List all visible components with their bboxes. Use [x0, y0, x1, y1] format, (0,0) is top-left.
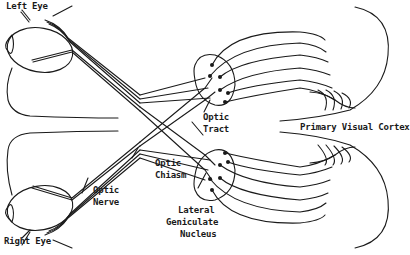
- lgn-upper: [194, 32, 335, 105]
- left-eye: [4, 6, 140, 111]
- label-right-eye: Right Eye: [4, 236, 51, 247]
- head-outline: [7, 68, 118, 195]
- right-eye: [4, 142, 140, 248]
- label-left-eye: Left Eye: [6, 1, 48, 12]
- lgn-lower: [194, 150, 335, 223]
- label-primary-visual-cortex: Primary Visual Cortex: [300, 122, 410, 133]
